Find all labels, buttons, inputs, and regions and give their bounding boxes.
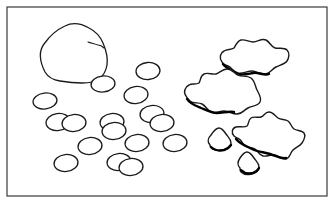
line-drawing-illustration <box>0 0 335 208</box>
figure-canvas: Line drawing of a boulder, scattered peb… <box>0 0 335 208</box>
